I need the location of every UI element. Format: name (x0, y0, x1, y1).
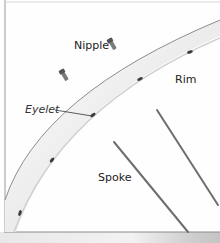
spoke-right (157, 110, 218, 205)
label-spoke: Spoke (98, 172, 131, 183)
bottom-strip (0, 232, 220, 243)
wheel-diagram: Nipple Rim Eyelet Spoke (0, 0, 220, 243)
label-eyelet: Eyelet (25, 104, 59, 115)
label-nipple: Nipple (74, 40, 109, 51)
nipple-icon (58, 68, 69, 81)
spoke-left (114, 142, 188, 232)
wheel-illustration (0, 0, 220, 243)
label-rim: Rim (175, 74, 196, 85)
